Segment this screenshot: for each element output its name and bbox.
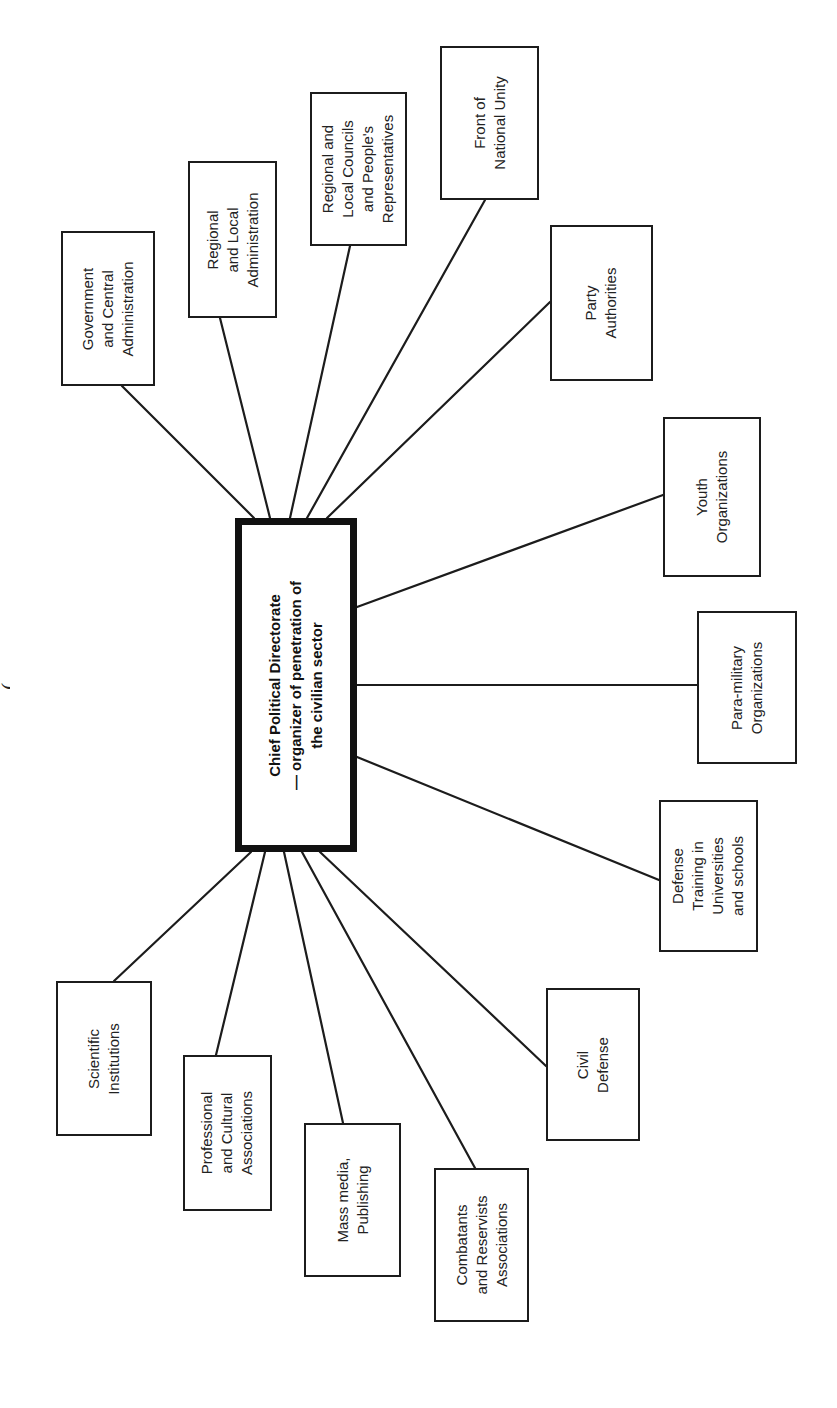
central-node-label: Chief Political Directorate — organizer …	[265, 580, 328, 789]
connector-youth-organizations	[357, 495, 663, 607]
node-mass-media-publishing: Mass media, Publishing	[304, 1123, 401, 1277]
node-government-central-administration: Government and Central Administration	[61, 231, 155, 386]
connector-civil-defense	[320, 852, 546, 1066]
node-combatants-reservists: Combatants and Reservists Associations	[434, 1168, 529, 1322]
node-professional-cultural: Professional and Cultural Associations	[183, 1055, 272, 1211]
connector-defense-training	[357, 757, 659, 880]
node-label: Government and Central Administration	[78, 261, 138, 356]
connector-mass-media-publishing	[284, 852, 343, 1123]
node-label: Regional and Local Administration	[203, 192, 263, 287]
connector-combatants-reservists	[302, 852, 475, 1168]
node-label: Defense Training in Universities and sch…	[669, 836, 749, 916]
connector-party-authorities	[327, 302, 550, 518]
connector-professional-cultural	[216, 852, 265, 1055]
central-node-chief-political-directorate: Chief Political Directorate — organizer …	[235, 518, 357, 852]
node-label: Regional and Local Councils and People's…	[319, 115, 399, 223]
node-label: Civil Defense	[573, 1037, 613, 1093]
node-label: Professional and Cultural Associations	[198, 1091, 258, 1175]
node-front-of-national-unity: Front of National Unity	[440, 46, 539, 200]
node-para-military-organizations: Para-military Organizations	[697, 611, 797, 764]
node-youth-organizations: Youth Organizations	[663, 417, 761, 577]
node-label: Mass media, Publishing	[333, 1157, 373, 1242]
node-civil-defense: Civil Defense	[546, 988, 640, 1141]
connector-regional-local-councils	[290, 246, 350, 518]
node-label: Party Authorities	[582, 268, 622, 339]
node-label: Combatants and Reservists Associations	[452, 1195, 512, 1294]
node-regional-local-councils: Regional and Local Councils and People's…	[310, 92, 407, 246]
node-label: Para-military Organizations	[727, 641, 767, 734]
node-label: Front of National Unity	[469, 76, 509, 169]
node-label: Youth Organizations	[692, 451, 732, 544]
node-label: Scientific Institutions	[84, 1023, 124, 1095]
node-regional-local-administration: Regional and Local Administration	[188, 161, 277, 318]
node-defense-training: Defense Training in Universities and sch…	[659, 800, 758, 952]
connector-scientific-institutions	[114, 852, 251, 981]
node-party-authorities: Party Authorities	[550, 225, 653, 381]
connector-front-of-national-unity	[307, 200, 485, 518]
node-scientific-institutions: Scientific Institutions	[56, 981, 152, 1136]
connector-government-central-administration	[122, 386, 254, 518]
connector-regional-local-administration	[220, 318, 270, 518]
